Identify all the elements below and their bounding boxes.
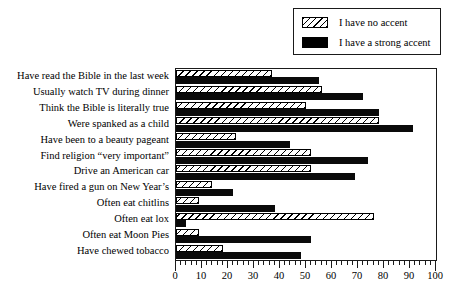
category-label: Usually watch TV during dinner — [33, 86, 169, 97]
bar-chart: I have no accent I have a strong accent … — [0, 0, 449, 295]
category-label: Were spanked as a child — [68, 118, 169, 129]
bar — [176, 220, 186, 227]
x-axis-major-tick — [201, 261, 202, 268]
category-label: Have read the Bible in the last week — [17, 70, 169, 81]
x-axis-minor-tick — [347, 261, 348, 265]
bars-layer — [176, 69, 436, 260]
bar — [176, 109, 379, 116]
category-label: Often eat Moon Pies — [82, 229, 169, 240]
x-axis-minor-tick — [414, 261, 415, 265]
x-axis-tick-label: 40 — [274, 270, 285, 282]
legend-item-no-accent: I have no accent — [302, 15, 408, 29]
x-axis-minor-tick — [289, 261, 290, 265]
bar — [176, 173, 355, 180]
bar — [176, 125, 413, 132]
x-axis-major-tick — [227, 261, 228, 268]
x-axis-minor-tick — [388, 261, 389, 265]
bar — [176, 245, 223, 252]
x-axis-minor-tick — [237, 261, 238, 265]
x-axis-minor-tick — [232, 261, 233, 265]
category-label: Drive an American car — [74, 165, 169, 176]
x-axis-major-tick — [383, 261, 384, 268]
bar — [176, 236, 311, 243]
x-axis-minor-tick — [269, 261, 270, 265]
x-axis-minor-tick — [284, 261, 285, 265]
bar — [176, 197, 199, 204]
bar — [176, 141, 290, 148]
x-axis-major-tick — [357, 261, 358, 268]
x-axis-minor-tick — [352, 261, 353, 265]
category-label: Think the Bible is literally true — [39, 102, 169, 113]
bar — [176, 102, 306, 109]
chart-legend: I have no accent I have a strong accent — [293, 8, 441, 55]
category-label: Find religion “very important” — [40, 150, 169, 161]
x-axis-minor-tick — [222, 261, 223, 265]
x-axis-minor-tick — [430, 261, 431, 265]
x-axis-tick-label: 30 — [248, 270, 259, 282]
x-axis-minor-tick — [217, 261, 218, 265]
x-axis-minor-tick — [378, 261, 379, 265]
x-axis-minor-tick — [321, 261, 322, 265]
legend-swatch-hatched-icon — [302, 17, 328, 28]
legend-label-strong-accent: I have a strong accent — [339, 37, 431, 48]
x-axis-tick-label: 90 — [404, 270, 415, 282]
bar — [176, 181, 212, 188]
x-axis-minor-tick — [258, 261, 259, 265]
legend-label-no-accent: I have no accent — [339, 17, 408, 28]
x-axis-minor-tick — [295, 261, 296, 265]
category-label: Often eat lox — [114, 213, 169, 224]
x-axis-minor-tick — [326, 261, 327, 265]
x-axis-minor-tick — [263, 261, 264, 265]
x-axis-major-tick — [279, 261, 280, 268]
bar — [176, 189, 233, 196]
category-label: Have chewed tobacco — [77, 245, 169, 256]
x-axis-minor-tick — [425, 261, 426, 265]
x-axis-minor-tick — [362, 261, 363, 265]
x-axis-tick-label: 60 — [326, 270, 337, 282]
x-axis-minor-tick — [180, 261, 181, 265]
x-axis-major-tick — [409, 261, 410, 268]
bar — [176, 229, 199, 236]
y-axis-category-labels: Have read the Bible in the last weekUsua… — [0, 68, 172, 261]
legend-swatch-solid-icon — [302, 37, 328, 48]
x-axis-minor-tick — [373, 261, 374, 265]
x-axis-minor-tick — [191, 261, 192, 265]
bar — [176, 133, 236, 140]
x-axis-tick-label: 50 — [300, 270, 311, 282]
bar — [176, 149, 311, 156]
category-label: Often eat chitlins — [97, 197, 169, 208]
legend-item-strong-accent: I have a strong accent — [302, 35, 431, 49]
x-axis-minor-tick — [341, 261, 342, 265]
x-axis-minor-tick — [419, 261, 420, 265]
x-axis-minor-tick — [196, 261, 197, 265]
x-axis-minor-tick — [393, 261, 394, 265]
x-axis-major-tick — [305, 261, 306, 268]
x-axis-minor-tick — [336, 261, 337, 265]
x-axis-minor-tick — [404, 261, 405, 265]
x-axis-minor-tick — [310, 261, 311, 265]
x-axis-minor-tick — [315, 261, 316, 265]
x-axis-tick-label: 10 — [196, 270, 207, 282]
x-axis-minor-tick — [367, 261, 368, 265]
x-axis-tick-label: 20 — [222, 270, 233, 282]
bar — [176, 213, 374, 220]
x-axis-major-tick — [331, 261, 332, 268]
x-axis-minor-tick — [206, 261, 207, 265]
x-axis-minor-tick — [274, 261, 275, 265]
bar — [176, 157, 368, 164]
bar — [176, 93, 363, 100]
x-axis-minor-tick — [300, 261, 301, 265]
bar — [176, 86, 322, 93]
category-label: Have fired a gun on New Year’s — [34, 181, 169, 192]
x-axis-minor-tick — [211, 261, 212, 265]
x-axis-tick-label: 100 — [427, 270, 443, 282]
x-axis-minor-tick — [185, 261, 186, 265]
x-axis: 0102030405060708090100 — [175, 261, 437, 295]
bar — [176, 70, 272, 77]
x-axis-major-tick — [253, 261, 254, 268]
category-label: Have been to a beauty pageant — [40, 134, 169, 145]
x-axis-minor-tick — [399, 261, 400, 265]
x-axis-tick-label: 0 — [172, 270, 177, 282]
bar — [176, 117, 379, 124]
bar — [176, 205, 275, 212]
